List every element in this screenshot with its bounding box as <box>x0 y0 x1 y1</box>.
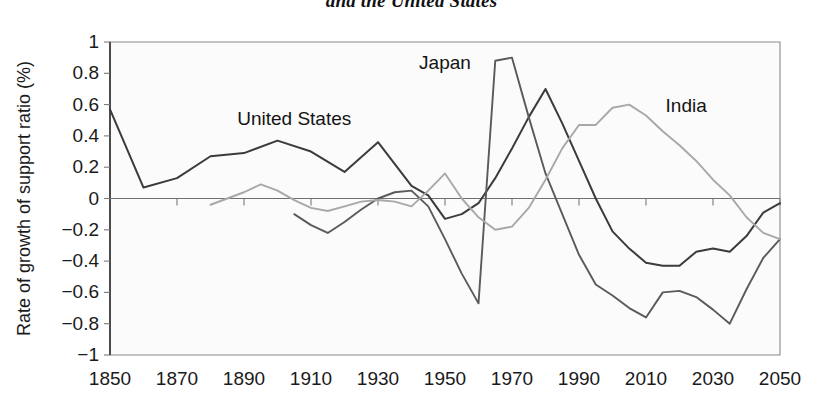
x-tick-label: 1990 <box>558 368 600 389</box>
x-tick-label: 1910 <box>290 368 332 389</box>
y-tick-label: −1 <box>77 344 99 365</box>
x-tick-label: 1850 <box>89 368 131 389</box>
chart-figure: and the United States 10.80.60.40.20−0.2… <box>0 0 823 398</box>
y-tick-label: 0 <box>88 188 99 209</box>
x-tick-label: 1930 <box>357 368 399 389</box>
y-axis-ticks <box>104 42 110 355</box>
x-tick-label: 2050 <box>759 368 801 389</box>
series-annotation-india: India <box>666 95 708 116</box>
y-tick-label: −0.2 <box>61 219 99 240</box>
y-tick-label: 1 <box>88 31 99 52</box>
y-tick-label: −0.6 <box>61 281 99 302</box>
x-tick-label: 2010 <box>625 368 667 389</box>
y-axis-title: Rate of growth of support ratio (%) <box>14 61 34 336</box>
x-axis-tick-labels: 1850187018901910193019501970199020102030… <box>89 368 801 389</box>
y-tick-label: 0.2 <box>73 156 99 177</box>
y-tick-label: 0.4 <box>73 125 100 146</box>
x-tick-label: 2030 <box>692 368 734 389</box>
series-annotation-japan: Japan <box>419 52 471 73</box>
y-axis-title-text: Rate of growth of support ratio (%) <box>14 61 34 336</box>
x-tick-label: 1970 <box>491 368 533 389</box>
y-tick-label: −0.8 <box>61 313 99 334</box>
y-tick-label: 0.6 <box>73 94 99 115</box>
y-tick-label: −0.4 <box>61 250 99 271</box>
x-tick-label: 1890 <box>223 368 265 389</box>
chart-plot-area: 10.80.60.40.20−0.2−0.4−0.6−0.8−1 1850187… <box>0 0 823 398</box>
y-tick-label: 0.8 <box>73 62 99 83</box>
y-axis-tick-labels: 10.80.60.40.20−0.2−0.4−0.6−0.8−1 <box>61 31 99 365</box>
x-tick-label: 1870 <box>156 368 198 389</box>
series-annotation-united-states: United States <box>237 108 351 129</box>
x-tick-label: 1950 <box>424 368 466 389</box>
